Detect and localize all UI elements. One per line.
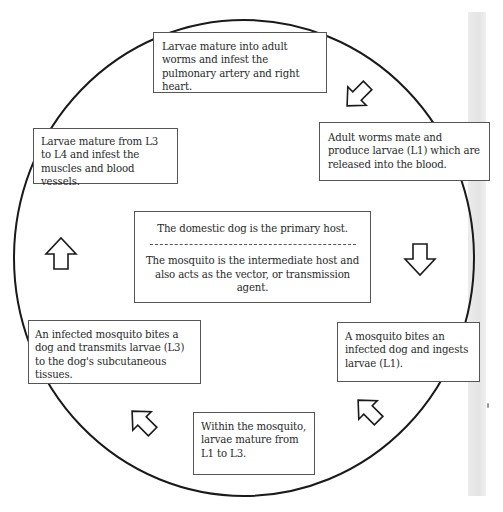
step-text: Within the mosquito, larvae mature from … [201,421,306,459]
primary-host-text: The domestic dog is the primary host. [141,222,364,235]
host-info-box: The domestic dog is the primary host. Th… [134,211,371,303]
arrow-down-icon [405,244,435,275]
step-box-mosquito-ingests: A mosquito bites an infected dog and ing… [337,322,480,382]
step-box-adult-worms-pulmonary: Larvae mature into adult worms and infes… [153,32,327,93]
intermediate-host-text: The mosquito is the intermediate host an… [141,254,364,294]
step-text: Larvae mature from L3 to L4 and infest t… [41,136,158,187]
step-text: A mosquito bites an infected dog and ing… [345,331,468,369]
arrow-up-left-icon [123,402,162,441]
dashed-divider [150,244,356,245]
arrow-down-right-icon [338,76,377,115]
step-text: An infected mosquito bites a dog and tra… [35,329,184,380]
step-box-l3-to-l4: Larvae mature from L3 to L4 and infest t… [33,128,178,184]
step-box-adults-mate: Adult worms mate and produce larvae (L1)… [319,122,490,181]
step-box-mature-in-mosquito: Within the mosquito, larvae mature from … [193,412,315,475]
arrow-up-icon [46,238,76,269]
step-text: Larvae mature into adult worms and infes… [162,41,299,92]
step-text: Adult worms mate and produce larvae (L1)… [328,132,480,170]
arrow-down-left-icon [349,391,388,430]
step-box-mosquito-transmits: An infected mosquito bites a dog and tra… [28,320,201,384]
